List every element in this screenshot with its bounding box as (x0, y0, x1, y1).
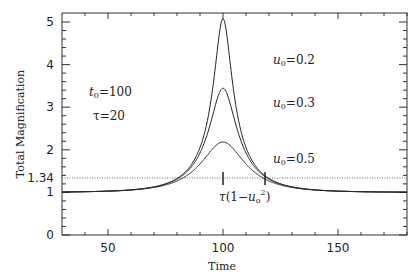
y-tick-3: 3 (46, 100, 54, 114)
x-tick-150: 150 (327, 241, 350, 255)
light-curves (62, 19, 407, 192)
y-axis-title: Total Magnification (14, 70, 27, 178)
y-tick-5: 5 (46, 15, 54, 29)
tau-annotation: τ=20 (93, 109, 125, 123)
x-axis-title: Time (208, 260, 236, 273)
u0-0.3-label: u0=0.3 (273, 96, 315, 111)
y-tick-1-34: 1.34 (27, 171, 54, 185)
curve-u0=0.2 (62, 19, 407, 192)
curve-u0=0.5 (62, 142, 407, 192)
t0-annotation: t0=100 (89, 85, 132, 100)
curve-u0=0.3 (62, 88, 407, 192)
y-tick-2: 2 (46, 143, 54, 157)
x-tick-50: 50 (100, 241, 115, 255)
u0-0.5-label: u0=0.5 (273, 152, 315, 167)
y-tick-0: 0 (46, 228, 54, 242)
x-tick-labels: 50 100 150 (100, 241, 349, 255)
y-tick-4: 4 (46, 58, 54, 72)
x-tick-100: 100 (212, 241, 235, 255)
crossing-width-annotation: τ(1−uo2) (219, 188, 270, 205)
y-tick-1: 1 (46, 185, 54, 199)
y-tick-labels: 0 1 1.34 2 3 4 5 (27, 15, 54, 242)
magnification-chart: 0 1 1.34 2 3 4 5 50 100 150 Time Total M… (0, 0, 418, 274)
u0-0.2-label: u0=0.2 (273, 53, 315, 68)
